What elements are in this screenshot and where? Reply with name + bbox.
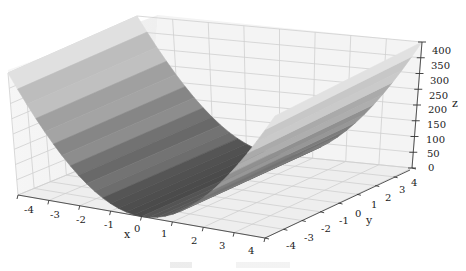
y-tick: 1 [371,200,377,210]
y-tick: -2 [321,224,331,234]
x-tick: 0 [134,224,140,234]
y-tick: 0 [355,209,361,219]
y-tick: 4 [411,178,417,188]
z-axis-label: z [452,98,458,109]
z-tick: 250 [429,91,448,101]
cropped-caption [170,262,290,268]
z-tick: 0 [428,163,434,173]
surface-plot [0,0,466,271]
y-tick: -3 [304,233,314,243]
z-tick: 350 [431,61,450,71]
z-tick: 300 [430,76,449,86]
x-tick: 3 [219,241,225,251]
x-tick: 2 [191,236,197,246]
x-tick: 1 [161,229,167,239]
y-tick: 3 [399,185,405,195]
x-tick: -4 [24,205,34,215]
x-tick: 4 [248,246,254,256]
x-tick: -3 [50,210,60,220]
y-tick: -1 [339,216,349,226]
y-tick: -4 [286,241,296,251]
x-axis-label: x [124,229,130,240]
z-tick: 150 [427,120,446,130]
z-tick: 50 [427,149,440,159]
y-axis-label: y [366,215,372,226]
y-tick: 2 [385,193,391,203]
z-tick: 200 [428,105,447,115]
x-tick: -2 [76,215,86,225]
x-tick: -1 [104,220,114,230]
z-tick: 400 [432,46,451,56]
z-tick: 100 [426,135,445,145]
